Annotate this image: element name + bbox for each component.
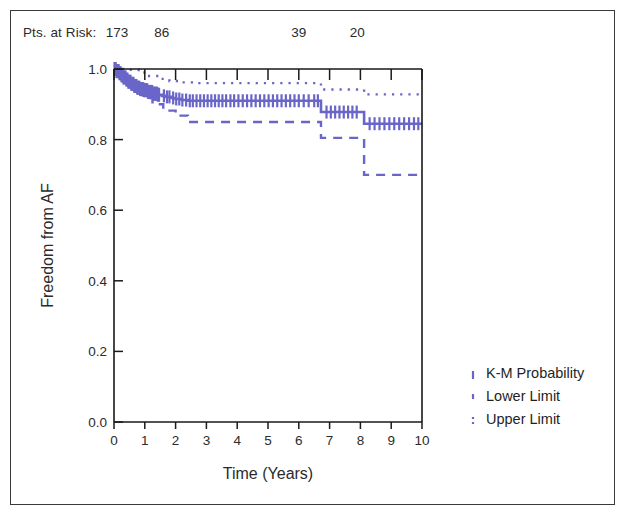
x-tick-label: 0 bbox=[110, 433, 118, 448]
y-tick-label: 0.6 bbox=[88, 203, 107, 218]
figure-frame: Pts. at Risk: 173863920 0123456789100.00… bbox=[10, 10, 615, 505]
y-tick-label: 0.8 bbox=[88, 133, 107, 148]
curves-layer bbox=[114, 69, 422, 175]
legend-label: K-M Probability bbox=[486, 365, 585, 381]
km-curve-dashed bbox=[114, 69, 422, 175]
x-tick-label: 7 bbox=[326, 433, 334, 448]
censor-marks-layer bbox=[115, 62, 419, 130]
y-tick-label: 1.0 bbox=[88, 62, 107, 77]
legend-label: Upper Limit bbox=[486, 411, 560, 427]
y-tick-label: 0.2 bbox=[88, 344, 107, 359]
chart-legend: K-M ProbabilityLower LimitUpper Limit bbox=[473, 365, 585, 427]
y-tick-label: 0.4 bbox=[88, 274, 107, 289]
y-axis-title: Freedom from AF bbox=[39, 183, 56, 308]
y-tick-label: 0.0 bbox=[88, 415, 107, 430]
x-tick-label: 2 bbox=[172, 433, 180, 448]
x-axis-title: Time (Years) bbox=[223, 465, 313, 482]
x-tick-label: 4 bbox=[233, 433, 241, 448]
x-tick-label: 1 bbox=[141, 433, 149, 448]
x-tick-label: 3 bbox=[203, 433, 211, 448]
km-survival-plot: 0123456789100.00.20.40.60.81.0Time (Year… bbox=[11, 11, 616, 506]
x-tick-label: 8 bbox=[357, 433, 365, 448]
plot-frame bbox=[114, 69, 422, 422]
x-tick-label: 9 bbox=[387, 433, 395, 448]
x-tick-label: 5 bbox=[264, 433, 272, 448]
x-tick-label: 6 bbox=[295, 433, 303, 448]
legend-label: Lower Limit bbox=[486, 388, 560, 404]
x-tick-label: 10 bbox=[414, 433, 429, 448]
